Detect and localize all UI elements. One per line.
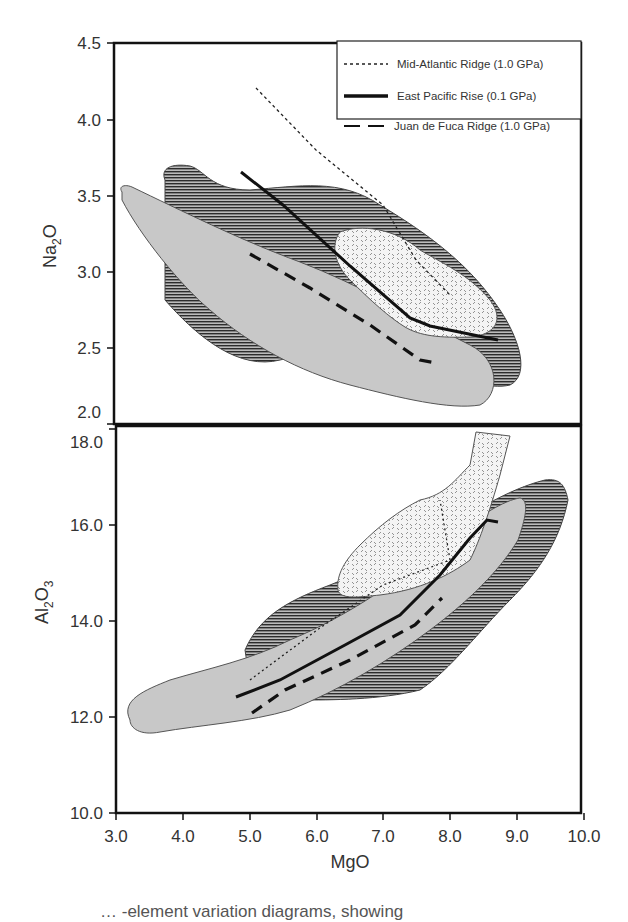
lower-ylabel: Al2O3	[32, 580, 56, 624]
xtick-3: 6.0	[305, 827, 329, 846]
legend-label-mar: Mid-Atlantic Ridge (1.0 GPa)	[397, 58, 544, 70]
upper-ytick-3: 3.0	[77, 263, 101, 282]
lower-ytick-1: 16.0	[70, 516, 103, 535]
xtick-4: 7.0	[371, 827, 395, 846]
lower-ytick-3: 12.0	[70, 708, 103, 727]
lower-ytick-0: 18.0	[70, 433, 103, 452]
legend-label-epr: East Pacific Rise (0.1 GPa)	[397, 90, 536, 102]
xtick-1: 4.0	[171, 827, 195, 846]
lower-panel: 18.0 16.0 14.0 12.0 10.0 Al2O3 3.0 4.0 5…	[32, 426, 601, 872]
upper-ytick-4: 2.5	[77, 339, 101, 358]
upper-ytick-0: 4.5	[77, 34, 101, 53]
upper-ytick-2: 3.5	[77, 187, 101, 206]
legend-label-jdf: Juan de Fuca Ridge (1.0 GPa)	[394, 120, 550, 132]
upper-ytick-1: 4.0	[77, 111, 101, 130]
legend: Mid-Atlantic Ridge (1.0 GPa) East Pacifi…	[337, 41, 581, 132]
xlabel: MgO	[330, 852, 369, 872]
xtick-5: 8.0	[438, 827, 462, 846]
lower-ytick-2: 14.0	[70, 612, 103, 631]
caption-fragment: … -element variation diagrams, showing	[100, 902, 403, 922]
xtick-7: 10.0	[567, 827, 600, 846]
xtick-0: 3.0	[104, 827, 128, 846]
upper-ytick-5: 2.0	[77, 403, 101, 422]
xtick-2: 5.0	[238, 827, 262, 846]
xtick-6: 9.0	[505, 827, 529, 846]
upper-ylabel: Na2O	[40, 224, 64, 268]
upper-panel: 4.5 4.0 3.5 3.0 2.5 2.0 Na2O Mid-Atlanti…	[40, 34, 581, 424]
lower-ytick-4: 10.0	[70, 804, 103, 823]
